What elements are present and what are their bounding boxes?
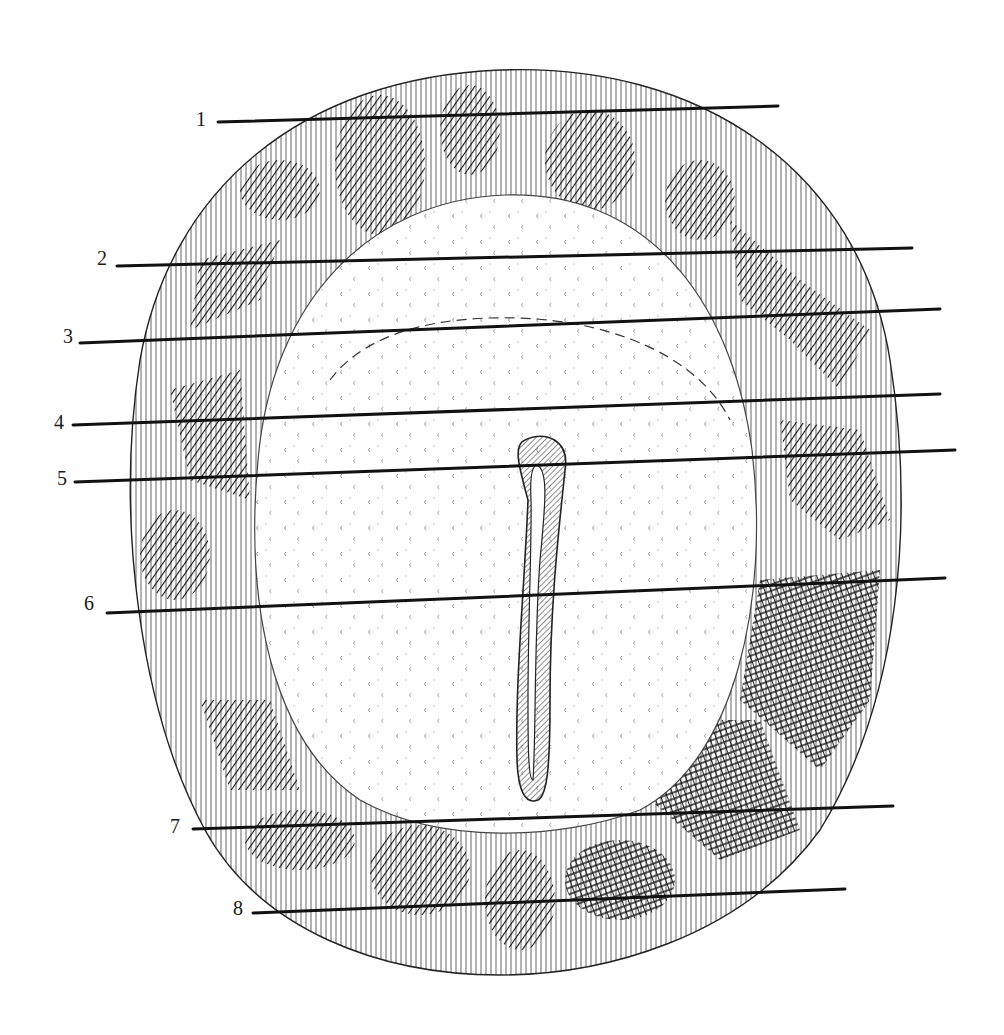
- label-number-5: 5: [57, 467, 67, 489]
- cross-section-figure: 1 2 3 4 5 6 7 8: [0, 0, 1004, 1035]
- label-number-3: 3: [63, 325, 73, 347]
- label-number-8: 8: [233, 897, 243, 919]
- label-number-6: 6: [84, 592, 94, 614]
- inner-lumen: [255, 195, 757, 833]
- label-number-2: 2: [97, 247, 107, 269]
- label-number-7: 7: [170, 815, 180, 837]
- label-number-4: 4: [54, 411, 64, 433]
- label-number-1: 1: [196, 108, 206, 130]
